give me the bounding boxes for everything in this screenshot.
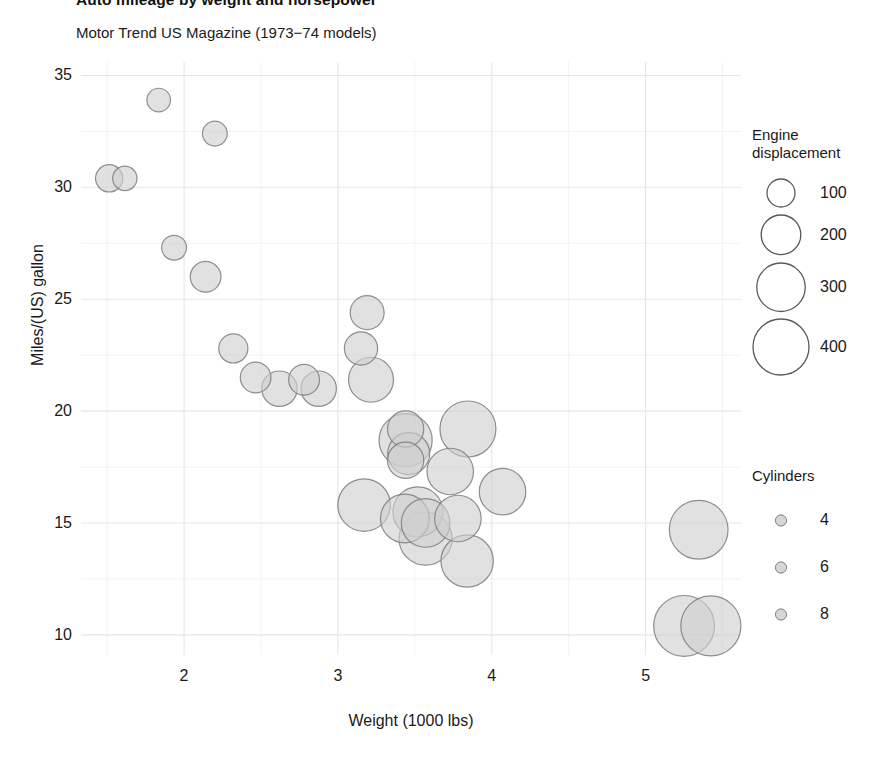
data-point [441,535,493,587]
size-legend-item[interactable]: 300 [752,259,847,315]
size-legend-title-line2: displacement [752,144,847,162]
plot-panel [81,62,741,655]
data-point [669,500,728,559]
data-point [479,468,526,515]
color-legend-dot-icon [752,497,810,544]
data-point [388,442,424,478]
data-point [219,334,248,363]
size-legend-label: 200 [820,226,847,244]
size-legend: Engine displacement 100200300400 [752,126,847,379]
plot-area [81,62,741,655]
chart-title: Auto mileage by weight and horsepower [76,0,377,9]
size-legend-title-line1: Engine [752,126,847,144]
color-legend-item[interactable]: 8 [752,591,829,638]
size-legend-title: Engine displacement [752,126,847,161]
size-legend-label: 300 [820,278,847,296]
data-point [113,166,137,190]
y-tick-label-35: 35 [22,67,72,83]
color-legend: Cylinders 468 [752,467,829,638]
data-point [147,88,171,112]
data-point [350,296,384,330]
color-legend-label: 6 [820,558,829,576]
color-legend-label: 4 [820,511,829,529]
data-point [202,121,227,146]
size-legend-items: 100200300400 [752,175,847,379]
size-legend-label: 400 [820,338,847,356]
data-point [190,261,221,292]
data-point [240,362,271,393]
size-legend-circle-icon [752,259,810,315]
x-tick-label-2: 2 [164,668,204,684]
color-legend-dot-icon [752,591,810,638]
x-tick-label-4: 4 [472,668,512,684]
color-legend-items: 468 [752,497,829,638]
y-tick-label-10: 10 [22,627,72,643]
color-legend-title: Cylinders [752,467,829,485]
x-tick-label-3: 3 [318,668,358,684]
color-legend-item[interactable]: 6 [752,544,829,591]
size-legend-circle-icon [752,211,810,259]
data-point [162,235,187,260]
color-legend-item[interactable]: 4 [752,497,829,544]
bubble-chart: Auto mileage by weight and horsepower Mo… [0,0,891,763]
size-legend-item[interactable]: 400 [752,315,847,379]
x-axis-ticks: 2345 [81,668,741,694]
color-legend-dot-icon [752,544,810,591]
color-legend-label: 8 [820,605,829,623]
size-legend-circle-icon [752,175,810,211]
x-tick-label-5: 5 [626,668,666,684]
data-point [427,448,474,495]
size-legend-circle-icon [752,315,810,379]
data-point [435,495,482,542]
chart-subtitle: Motor Trend US Magazine (1973−74 models) [76,24,377,41]
size-legend-label: 100 [820,184,847,202]
gridlines [81,62,741,655]
size-legend-item[interactable]: 200 [752,211,847,259]
size-legend-item[interactable]: 100 [752,175,847,211]
x-axis-label: Weight (1000 lbs) [81,712,741,730]
data-point [344,332,377,365]
data-point [289,364,320,395]
data-point [681,596,741,656]
y-tick-label-15: 15 [22,515,72,531]
data-points [96,88,741,656]
y-axis-label: Miles/(US) gallon [29,185,47,425]
